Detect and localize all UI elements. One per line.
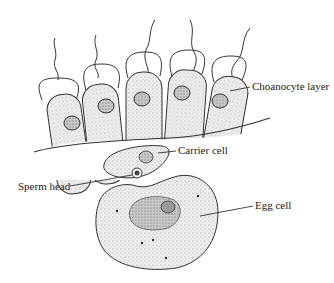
label-sperm-head: Sperm head — [18, 180, 70, 192]
sponge-fertilization-diagram — [0, 0, 334, 283]
label-choanocyte-layer: Choanocyte layer — [252, 80, 329, 92]
egg-cell — [96, 175, 218, 269]
label-carrier-cell: Carrier cell — [178, 144, 228, 156]
sperm-head — [132, 168, 142, 178]
label-egg-cell: Egg cell — [255, 199, 291, 211]
